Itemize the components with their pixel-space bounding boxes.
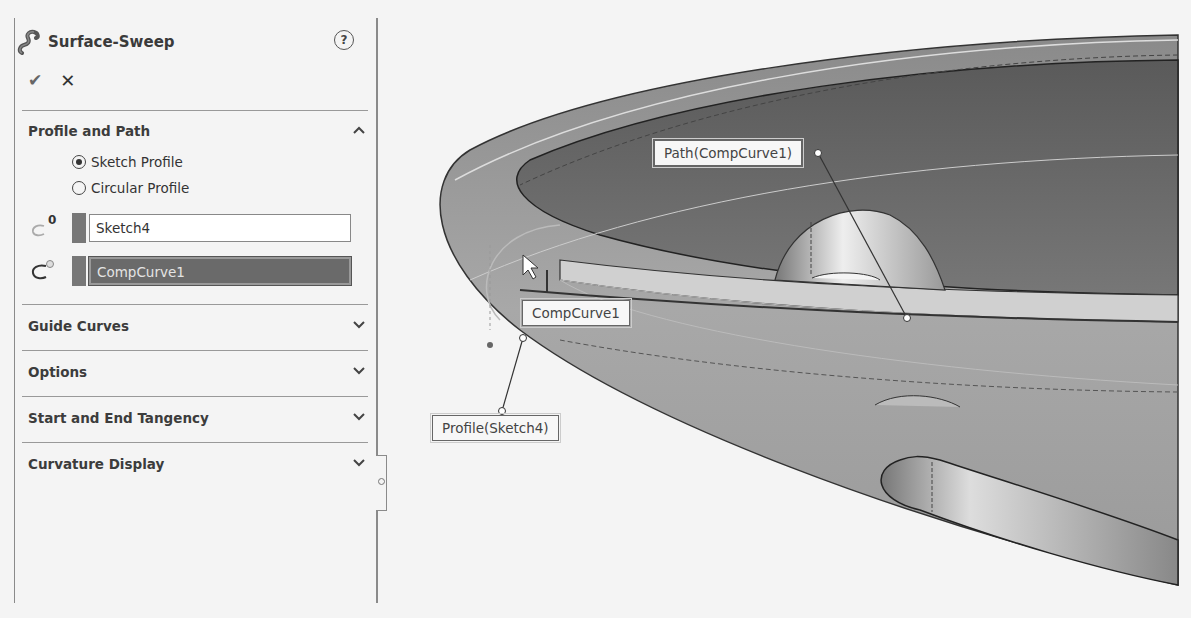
divider (22, 350, 368, 351)
section-label: Guide Curves (28, 318, 129, 334)
section-curvature-display[interactable]: Curvature Display (28, 456, 368, 478)
radio-button[interactable] (72, 155, 86, 169)
radio-label: Sketch Profile (91, 154, 183, 170)
panel-border (376, 508, 378, 603)
chevron-up-icon[interactable] (352, 123, 366, 137)
hover-tooltip: CompCurve1 (522, 300, 630, 326)
section-guide-curves[interactable]: Guide Curves (28, 318, 368, 340)
panel-border (376, 18, 378, 456)
section-label: Curvature Display (28, 456, 164, 472)
section-label: Options (28, 364, 87, 380)
divider (22, 304, 368, 305)
chevron-down-icon[interactable] (352, 456, 366, 470)
ok-button[interactable]: ✔ (28, 70, 42, 91)
chevron-down-icon[interactable] (352, 410, 366, 424)
svg-text:0: 0 (48, 213, 56, 227)
feature-title: Surface-Sweep (48, 33, 175, 51)
chevron-down-icon[interactable] (352, 364, 366, 378)
property-manager-panel (14, 18, 377, 603)
radio-sketch-profile[interactable]: Sketch Profile (72, 154, 183, 170)
radio-label: Circular Profile (91, 180, 189, 196)
radio-circular-profile[interactable]: Circular Profile (72, 180, 189, 196)
cancel-button[interactable]: ✕ (60, 70, 75, 91)
radio-button[interactable] (72, 181, 86, 195)
handle-dot-icon (378, 478, 385, 485)
graphics-viewport[interactable] (385, 0, 1191, 618)
section-start-end-tangency[interactable]: Start and End Tangency (28, 410, 368, 432)
path-color-swatch (72, 256, 86, 286)
chevron-down-icon[interactable] (352, 318, 366, 332)
profile-icon: 0 (30, 212, 60, 238)
feature-title-row: Surface-Sweep ? (16, 28, 356, 56)
divider (22, 110, 368, 111)
path-icon (30, 256, 60, 282)
profile-color-swatch (72, 213, 86, 243)
section-options[interactable]: Options (28, 364, 368, 386)
surface-sweep-icon (16, 29, 42, 55)
profile-callout[interactable]: Profile(Sketch4) (432, 415, 559, 441)
section-profile-and-path[interactable]: Profile and Path (28, 123, 368, 145)
path-callout[interactable]: Path(CompCurve1) (654, 140, 802, 166)
section-label: Start and End Tangency (28, 410, 209, 426)
divider (22, 396, 368, 397)
path-selection-field[interactable]: CompCurve1 (89, 257, 351, 285)
help-icon[interactable]: ? (334, 30, 354, 50)
action-buttons: ✔ ✕ (28, 70, 75, 91)
section-label: Profile and Path (28, 123, 150, 139)
profile-selection-field[interactable]: Sketch4 (89, 214, 351, 242)
divider (22, 442, 368, 443)
